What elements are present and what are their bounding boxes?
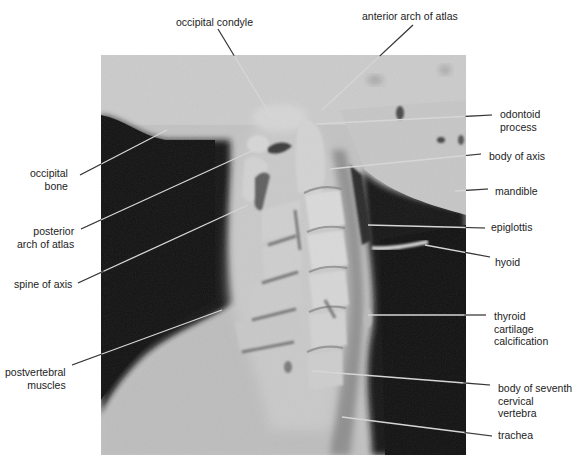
label-occipital-bone: occipital bone xyxy=(30,167,68,192)
anatomy-figure: occipital condyleanterior arch of atlaso… xyxy=(0,0,585,469)
label-posterior-arch-of-atlas: posterior arch of atlas xyxy=(17,225,74,250)
xray-image xyxy=(101,55,466,455)
occipital-bone-leader-line-outer xyxy=(80,164,102,175)
postvertebral-muscles-leader-line-outer xyxy=(72,354,102,365)
label-epiglottis: epiglottis xyxy=(491,221,532,234)
body-of-seventh-cervical-vertebra-leader-line-outer xyxy=(463,383,490,385)
label-odontoid-process: odontoid process xyxy=(500,108,540,133)
trachea-leader-line-outer xyxy=(465,433,493,436)
label-body-of-seventh-cervical-vertebra: body of seventh cervical vertebra xyxy=(498,382,572,420)
epiglottis-leader-line-outer xyxy=(466,228,486,229)
label-occipital-condyle: occipital condyle xyxy=(176,16,253,29)
occipital-condyle-leader-line-outer xyxy=(218,29,234,56)
label-anterior-arch-of-atlas: anterior arch of atlas xyxy=(362,10,458,23)
label-thyroid-cartilage-calcification: thyroid cartilage calcification xyxy=(494,310,548,348)
posterior-arch-of-atlas-leader-line-outer xyxy=(81,220,101,229)
mandible-leader-line-outer xyxy=(466,189,488,190)
anterior-arch-of-atlas-leader-line-outer xyxy=(380,25,413,56)
label-trachea: trachea xyxy=(498,429,533,442)
body-of-axis-leader-line-outer xyxy=(466,154,481,156)
label-spine-of-axis: spine of axis xyxy=(14,278,72,291)
label-hyoid: hyoid xyxy=(495,256,520,269)
label-postvertebral-muscles: postvertebral muscles xyxy=(5,366,66,391)
odontoid-process-leader-line-outer xyxy=(466,115,492,116)
label-mandible: mandible xyxy=(495,185,538,198)
hyoid-leader-line-outer xyxy=(465,252,490,257)
spine-of-axis-leader-line-outer xyxy=(78,271,104,283)
label-body-of-axis: body of axis xyxy=(489,150,545,163)
